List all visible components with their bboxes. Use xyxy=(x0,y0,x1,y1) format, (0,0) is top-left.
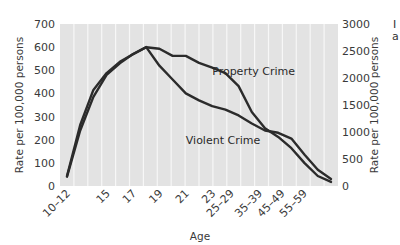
x-axis: 10–12151719212325–2935–3945–4955–59 xyxy=(40,187,310,220)
left-tick-label: 700 xyxy=(34,18,55,31)
x-tick-label: 10–12 xyxy=(40,187,73,220)
x-tick-label: 17 xyxy=(120,187,139,206)
left-tick-label: 400 xyxy=(34,87,55,100)
left-axis-title: Rate per 100,000 persons xyxy=(13,37,25,173)
left-y-axis: 0100200300400500600700 xyxy=(34,18,55,193)
x-tick-label: 21 xyxy=(173,187,192,206)
left-tick-label: 300 xyxy=(34,111,55,124)
right-tick-label: 1000 xyxy=(342,126,370,139)
right-tick-label: 3000 xyxy=(342,18,370,31)
property-crime-label: Property Crime xyxy=(212,65,295,78)
right-axis-title: Rate per 100,000 persons xyxy=(368,37,380,173)
right-tick-label: 0 xyxy=(342,180,349,193)
right-y-axis: 050010001500200025003000 xyxy=(342,18,370,193)
violent-crime-label: Violent Crime xyxy=(186,134,261,147)
x-tick-label: 19 xyxy=(146,187,165,206)
right-tick-label: 1500 xyxy=(342,99,370,112)
x-tick-label: 15 xyxy=(94,187,113,206)
cut-off-text-2: a xyxy=(392,30,399,43)
left-tick-label: 600 xyxy=(34,41,55,54)
line-chart: 0100200300400500600700 05001000150020002… xyxy=(0,0,400,245)
left-tick-label: 100 xyxy=(34,157,55,170)
left-tick-label: 0 xyxy=(48,180,55,193)
right-tick-label: 500 xyxy=(342,153,363,166)
right-tick-label: 2000 xyxy=(342,72,370,85)
left-tick-label: 200 xyxy=(34,134,55,147)
right-tick-label: 2500 xyxy=(342,45,370,58)
x-axis-title: Age xyxy=(190,230,210,242)
left-tick-label: 500 xyxy=(34,64,55,77)
